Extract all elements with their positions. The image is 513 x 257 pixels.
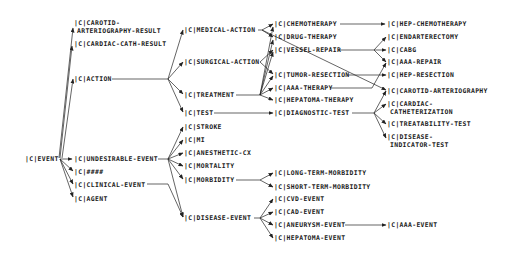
node-cardiac-cath-result: |C|CARDIAC-CATH-RESULT [74,40,166,48]
edge-treatment-chemo [260,27,273,95]
node-carotid-arteriography: |C|CAROTID-ARTERIOGRAPHY [387,87,488,95]
node-aaa-therapy: |C|AAA-THERAPY [274,84,333,92]
node-cad-event: |C|CAD-EVENT [274,208,324,216]
node-hepatoma-therapy: |C|HEPATOMA-THERAPY [274,96,354,104]
node-tumor-resection: |C|TUMOR-RESECTION [274,71,350,79]
node-morbidity: |C|MORBIDITY [184,176,234,184]
node-long-term-morbidity: |C|LONG-TERM-MORBIDITY [274,169,366,177]
node-hepatoma-event: |C|HEPATOMA-EVENT [274,234,345,242]
node-endarterectomy: |C|ENDARTERECTOMY [387,33,458,41]
node-hidden: |C|#### [74,168,103,176]
node-cvd-event: |C|CVD-EVENT [274,195,324,203]
edge-treatment-drug [260,40,273,95]
edge-event-cardiac-cath-result [60,46,72,158]
node-agent: |C|AGENT [74,195,108,203]
edge-diagnostic-treatability [374,113,386,124]
node-stroke: |C|STROKE [184,123,222,131]
edge-event-clinical [60,159,73,184]
node-chemotherapy: |C|CHEMOTHERAPY [274,20,337,28]
node-event: |C|EVENT [25,155,59,163]
node-action: |C|ACTION [74,75,112,83]
node-test: |C|TEST [184,109,213,117]
edge-morbidity-short [260,180,273,187]
node-cabg: |C|CABG [387,46,416,54]
edge-action-test [168,79,183,112]
node-carotid-arteriography-result: |C|CAROTID- [74,19,120,27]
node-aneurysm-event: |C|ANEURYSM-EVENT [274,221,345,229]
node-surgical-action: |C|SURGICAL-ACTION [184,58,260,66]
node-mi: |C|MI [184,136,205,144]
node-disease-event: |C|DISEASE-EVENT [184,214,251,222]
node-clinical-event: |C|CLINICAL-EVENT [74,181,145,189]
edge-vessel-aaarepair [374,50,386,62]
node-drug-therapy: |C|DRUG-THERAPY [274,33,337,41]
nodes: |C|EVENT |C|CAROTID- ARTERIOGRAPHY-RESUL… [25,19,488,242]
edge-treatment-hepatoma [260,95,273,100]
edge-disease-hepatoma [260,218,273,238]
edge-vessel-endart [374,37,386,50]
edge-diagnostic-carotid [374,91,386,113]
node-disease-indicator-test: |C|DISEASE- [387,133,433,141]
node-medical-action: |C|MEDICAL-ACTION [184,26,255,34]
node-treatment: |C|TREATMENT [184,91,234,99]
node-undesirable-event: |C|UNDESIRABLE-EVENT [74,155,158,163]
node-carotid-arteriography-result-line2: ARTERIOGRAPHY-RESULT [77,27,161,35]
edge-action-treatment [168,79,183,94]
node-treatability-test: |C|TREATABILITY-TEST [387,120,471,128]
edge-diagnostic-cardiac [374,104,386,113]
node-mortality: |C|MORTALITY [184,162,234,170]
node-disease-indicator-test-line2: INDICATOR-TEST [390,141,449,149]
node-aaa-event: |C|AAA-EVENT [387,221,437,229]
edge-diagnostic-disease-ind [374,113,386,138]
edge-morbidity-long [260,173,273,180]
edges [59,24,386,238]
node-aaa-repair: |C|AAA-REPAIR [387,58,442,66]
concept-hierarchy-diagram: |C|EVENT |C|CAROTID- ARTERIOGRAPHY-RESUL… [0,0,513,257]
node-hep-resection: |C|HEP-RESECTION [387,71,454,79]
node-hep-chemotherapy: |C|HEP-CHEMOTHERAPY [387,20,467,28]
node-vessel-repair: |C|VESSEL-REPAIR [274,46,341,54]
edge-action-medical [168,30,183,79]
edge-clinical-disease [147,184,183,217]
node-diagnostic-test: |C|DIAGNOSTIC-TEST [274,109,350,117]
node-short-term-morbidity: |C|SHORT-TERM-MORBIDITY [274,183,371,191]
node-cardiac-catheterization: |C|CARDIAC- [387,100,433,108]
edge-treatment-vessel [260,52,273,95]
edge-undesirable-disease [168,159,183,217]
node-cardiac-catheterization-line2: CATHETERIZATION [390,108,453,116]
node-anesthetic-cx: |C|ANESTHETIC-CX [184,149,251,157]
edge-medical-chemo [262,24,273,30]
